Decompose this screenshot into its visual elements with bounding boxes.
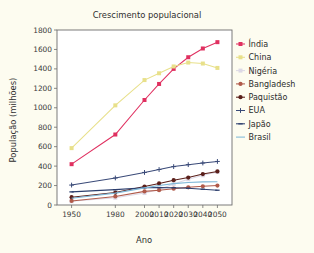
data-point: [69, 199, 73, 203]
y-axis-ticks: 020040060080010001200140016001800: [33, 26, 57, 210]
population-growth-chart: 020040060080010001200140016001800 195019…: [0, 0, 314, 253]
legend-marker: [239, 55, 243, 59]
data-point: [215, 40, 219, 44]
data-point: [238, 82, 242, 86]
data-point: [215, 66, 219, 70]
x-tick-label: 2050: [208, 210, 227, 219]
legend-label: China: [249, 53, 272, 62]
legend-label: Índia: [249, 38, 269, 49]
data-point: [186, 61, 190, 65]
data-point: [113, 133, 117, 137]
legend-label: Paquistão: [249, 93, 288, 102]
legend-label: Brasil: [249, 133, 271, 142]
data-point: [201, 46, 205, 50]
data-point: [172, 178, 176, 182]
y-axis-title: População (milhões): [8, 78, 18, 163]
data-point: [239, 42, 243, 46]
data-point: [238, 95, 242, 99]
y-tick-label: 600: [38, 142, 52, 151]
data-point: [157, 82, 161, 86]
x-axis-ticks: 19501980200020102020203020402050: [62, 205, 227, 219]
legend-marker: [238, 82, 242, 86]
legend-label: Nigéria: [249, 66, 278, 76]
data-point: [142, 189, 146, 193]
x-tick-label: 1980: [106, 210, 125, 219]
y-tick-label: 400: [38, 162, 52, 171]
data-point: [157, 188, 161, 192]
plot-area: [57, 30, 232, 205]
legend-marker: [238, 108, 243, 113]
legend-item-jap-o[interactable]: Japão: [236, 120, 271, 129]
y-tick-label: 1600: [33, 45, 52, 54]
legend-item-paquist-o[interactable]: Paquistão: [236, 93, 287, 102]
legend-label: Bangladesh: [249, 80, 296, 89]
legend-marker: [239, 42, 243, 46]
legend-marker: [238, 95, 242, 99]
legend-item-bangladesh[interactable]: Bangladesh: [236, 80, 295, 89]
data-point: [143, 98, 147, 102]
data-point: [69, 195, 73, 199]
y-tick-label: 200: [38, 181, 52, 190]
legend-marker: [239, 69, 243, 73]
y-tick-label: 0: [47, 201, 52, 210]
x-tick-label: 1950: [62, 210, 81, 219]
data-point: [215, 169, 219, 173]
data-point: [172, 64, 176, 68]
y-tick-label: 1400: [33, 64, 52, 73]
data-point: [239, 69, 243, 73]
data-point: [113, 194, 117, 198]
y-tick-label: 1200: [33, 84, 52, 93]
legend-item-china[interactable]: China: [236, 53, 271, 62]
data-point: [201, 62, 205, 66]
data-point: [186, 55, 190, 59]
data-point: [239, 55, 243, 59]
data-point: [201, 184, 205, 188]
y-tick-label: 1800: [33, 26, 52, 35]
chart-legend: ÍndiaChinaNigériaBangladeshPaquistãoEUAJ…: [236, 38, 295, 142]
x-axis-title: Ano: [136, 235, 152, 245]
data-point: [201, 172, 205, 176]
data-point: [70, 162, 74, 166]
chart-title: Crescimento populacional: [93, 10, 202, 20]
legend-item--ndia[interactable]: Índia: [236, 38, 268, 49]
legend-item-brasil[interactable]: Brasil: [236, 133, 271, 142]
y-tick-label: 800: [38, 123, 52, 132]
legend-item-eua[interactable]: EUA: [236, 106, 265, 115]
y-tick-label: 1000: [33, 103, 52, 112]
legend-item-nig-ria[interactable]: Nigéria: [236, 66, 277, 76]
legend-label: Japão: [248, 120, 271, 129]
chart-canvas: 020040060080010001200140016001800 195019…: [0, 0, 314, 253]
data-point: [157, 71, 161, 75]
data-point: [186, 175, 190, 179]
data-point: [143, 78, 147, 82]
legend-label: EUA: [249, 106, 266, 115]
data-point: [113, 103, 117, 107]
data-point: [70, 146, 74, 150]
data-point: [215, 183, 219, 187]
plot-frame: [57, 30, 232, 205]
